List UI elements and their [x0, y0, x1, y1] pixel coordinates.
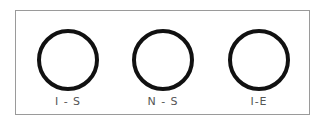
circle-icon — [132, 29, 194, 91]
circle-item-n-s: N - S — [118, 11, 208, 116]
circle-label: I - S — [23, 95, 113, 108]
circle-label: N - S — [118, 95, 208, 108]
circle-icon — [37, 29, 99, 91]
circle-item-i-s: I - S — [23, 11, 113, 116]
circle-icon — [228, 29, 290, 91]
circle-item-i-e: I-E — [214, 11, 304, 116]
circle-label: I-E — [214, 95, 304, 108]
diagram-frame: I - S N - S I-E — [15, 10, 310, 115]
